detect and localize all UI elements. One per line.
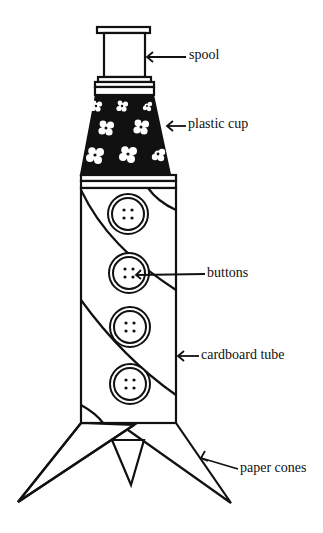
label-paper-cones: paper cones bbox=[240, 460, 306, 476]
button-4 bbox=[110, 364, 150, 404]
label-plastic-cup: plastic cup bbox=[188, 116, 248, 132]
button-2 bbox=[109, 253, 149, 293]
label-cardboard-tube: cardboard tube bbox=[201, 347, 285, 363]
rocket-diagram bbox=[0, 0, 323, 533]
spool-shape bbox=[95, 27, 154, 87]
paper-cones-shape bbox=[18, 423, 231, 503]
label-buttons: buttons bbox=[207, 265, 248, 281]
label-spool: spool bbox=[189, 47, 219, 63]
button-1 bbox=[108, 194, 148, 234]
button-3 bbox=[110, 307, 150, 347]
